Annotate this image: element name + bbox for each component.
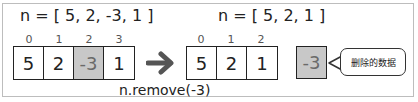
before-index-2: 2 (74, 33, 104, 46)
before-cell-3: 1 (104, 47, 134, 79)
before-cell-0: 5 (14, 47, 44, 79)
after-index-1: 1 (216, 33, 246, 46)
before-cell-1: 2 (44, 47, 74, 79)
before-array: 5 2 -3 1 (13, 46, 135, 80)
before-list-label: n = [ 5, 2, -3, 1 ] (20, 6, 153, 25)
operation-label: n.remove(-3) (119, 82, 210, 98)
after-cell-2: 1 (247, 47, 277, 79)
after-list-label: n = [ 5, 2, 1 ] (218, 6, 325, 25)
before-index-0: 0 (14, 33, 44, 46)
before-cell-2-removed: -3 (74, 47, 104, 79)
after-index-0: 0 (186, 33, 216, 46)
removed-value-box: -3 (296, 46, 327, 79)
removed-callout: 删除的数据 (340, 48, 406, 76)
after-cell-1: 2 (217, 47, 247, 79)
after-cell-0: 5 (187, 47, 217, 79)
after-index-2: 2 (246, 33, 276, 46)
after-array: 5 2 1 (186, 46, 278, 80)
right-arrow-icon (146, 51, 176, 75)
before-index-3: 3 (104, 33, 134, 46)
before-index-1: 1 (44, 33, 74, 46)
